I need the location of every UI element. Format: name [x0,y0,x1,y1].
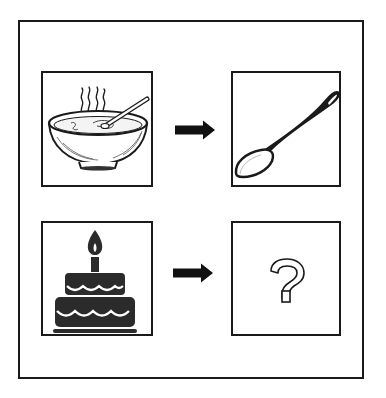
spoon-card: Spoon [231,71,341,187]
soup-bowl-icon [43,73,155,189]
birthday-cake-icon [43,223,155,338]
soup-bowl-card: Soup bowl [41,71,153,187]
right-arrow-icon [173,263,215,283]
question-mark-icon [233,223,343,338]
right-arrow-icon [175,120,217,140]
answer-card: ? [231,221,341,336]
birthday-cake-card: Birthday cake [41,221,153,336]
spoon-icon [233,73,343,189]
